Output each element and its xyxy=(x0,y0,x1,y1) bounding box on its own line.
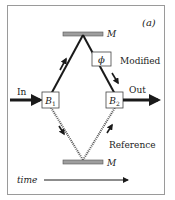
input-label: In xyxy=(17,87,27,97)
reference-beam-left xyxy=(50,106,83,160)
mirror-bottom-label: M xyxy=(106,158,117,168)
arrow-icon xyxy=(112,73,118,83)
arrow-icon xyxy=(107,125,112,133)
modified-beam-left xyxy=(50,35,83,96)
panel-label: (a) xyxy=(142,17,156,28)
mirror-bottom xyxy=(63,160,103,164)
output-label: Out xyxy=(129,85,146,95)
time-label: time xyxy=(17,175,37,185)
reference-label: Reference xyxy=(109,140,156,150)
modified-label: Modified xyxy=(120,56,161,66)
interferometer-diagram: (a) M ϕ Modified Reference M In B1 B2 Ou… xyxy=(0,0,175,200)
mirror-top-label: M xyxy=(106,29,117,39)
phase-label: ϕ xyxy=(98,54,105,65)
reference-beam-right xyxy=(83,106,116,160)
